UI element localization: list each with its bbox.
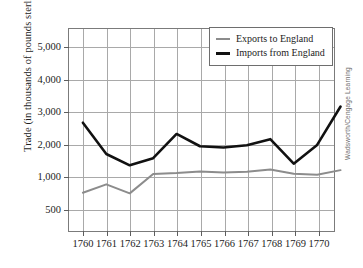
x-tick [319,231,320,236]
legend-item-imports: Imports from England [216,46,326,60]
x-tick [201,231,202,236]
x-tick [248,231,249,236]
y-tick-label: 2,000 [37,140,61,151]
x-tick [177,231,178,236]
y-tick-label: 5,000 [37,42,61,53]
legend-item-exports: Exports to England [216,32,326,46]
x-tick-label: 1766 [214,239,235,250]
legend-swatch-imports [216,52,230,55]
x-tick [130,231,131,236]
legend-label-exports: Exports to England [236,34,313,44]
plot-area: 5,0004,0003,0002,0001,000500 17601761176… [68,28,335,232]
x-tick-label: 1764 [167,239,188,250]
x-tick-label: 1762 [120,239,141,250]
x-tick-label: 1770 [309,239,330,250]
y-axis-title: Trade (in thousands of pounds sterling) [22,0,33,173]
x-tick-label: 1761 [96,239,117,250]
legend-label-imports: Imports from England [236,48,325,58]
publisher-credit: Wadsworth/Cengage Learning [344,49,351,179]
y-tick-label: 1,000 [37,172,61,183]
series-line [83,107,341,166]
series-line [83,169,341,193]
y-tick-label: 4,000 [37,74,61,85]
x-tick-label: 1765 [191,239,212,250]
chart-legend: Exports to England Imports from England [209,27,333,66]
x-tick-label: 1768 [261,239,282,250]
x-tick [295,231,296,236]
trade-line-chart: Trade (in thousands of pounds sterling) … [0,0,363,268]
legend-swatch-exports [216,38,230,40]
x-tick-label: 1763 [143,239,164,250]
y-tick-label: 3,000 [37,107,61,118]
x-tick [83,231,84,236]
x-tick [154,231,155,236]
x-tick-label: 1767 [238,239,259,250]
x-tick-label: 1769 [285,239,306,250]
x-tick [107,231,108,236]
x-tick [272,231,273,236]
y-tick-label: 500 [45,205,61,216]
x-tick-label: 1760 [73,239,94,250]
x-tick [225,231,226,236]
